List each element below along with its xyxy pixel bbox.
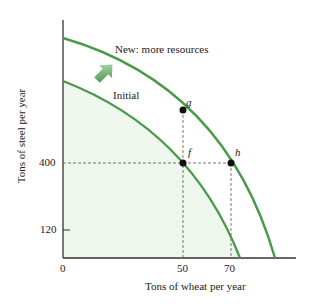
x-axis-label: Tons of wheat per year bbox=[145, 280, 246, 292]
point-f bbox=[180, 160, 187, 167]
x-tick-50: 50 bbox=[177, 262, 188, 274]
y-axis-label: Tons of steel per year bbox=[15, 76, 27, 196]
point-h-label: h bbox=[235, 146, 241, 158]
initial-curve-label: Initial bbox=[113, 89, 139, 101]
y-tick-400: 400 bbox=[39, 156, 56, 168]
x-tick-70: 70 bbox=[224, 262, 235, 274]
shift-arrow-icon bbox=[91, 58, 119, 86]
x-tick-0: 0 bbox=[60, 262, 66, 274]
point-h bbox=[228, 160, 235, 167]
point-g-label: g bbox=[186, 96, 192, 108]
feasible-region bbox=[63, 81, 240, 258]
point-f-label: f bbox=[188, 146, 191, 158]
y-tick-120: 120 bbox=[40, 223, 57, 235]
new-curve-label: New: more resources bbox=[115, 43, 208, 55]
